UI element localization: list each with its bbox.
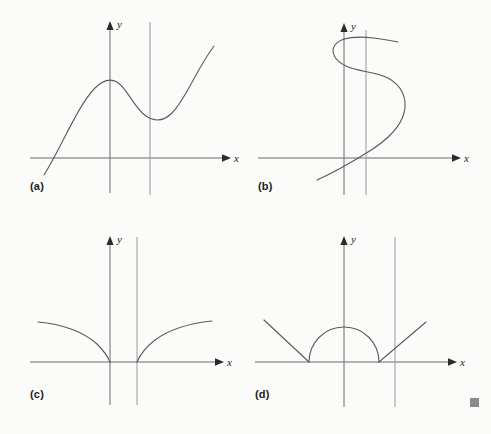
curve-left-ray (264, 320, 309, 362)
x-axis-label: x (226, 356, 232, 368)
panel-a-plot: x y (0, 0, 250, 200)
y-axis-arrowhead (106, 21, 113, 30)
x-axis-label: x (233, 152, 239, 164)
panel-d-plot: x y (240, 215, 491, 434)
curve-left-arc (38, 322, 110, 362)
x-axis-arrowhead (452, 154, 461, 161)
x-axis-label: x (463, 152, 469, 164)
y-axis-arrowhead (106, 236, 113, 245)
end-of-section-marker (470, 398, 479, 407)
x-axis-label: x (459, 356, 465, 368)
x-axis-arrowhead (215, 358, 224, 365)
panel-label-d: (d) (255, 388, 270, 400)
panel-c: x y (c) (0, 215, 250, 434)
y-axis-arrowhead (340, 23, 347, 32)
y-axis-label: y (116, 18, 122, 30)
figure-root: . . . . . . . . . . . . . . . . . . . . … (0, 0, 491, 434)
panel-label-b: (b) (258, 180, 273, 192)
curve-cubic (44, 46, 214, 175)
panel-b-plot: x y (240, 0, 491, 200)
panel-label-a: (a) (30, 180, 44, 192)
x-axis-arrowhead (222, 154, 231, 161)
panel-label-c: (c) (30, 388, 44, 400)
y-axis-arrowhead (340, 236, 347, 245)
curve-right-arc (137, 321, 212, 362)
y-axis-label: y (350, 20, 356, 32)
y-axis-label: y (116, 233, 122, 245)
panel-b: x y (b) (240, 0, 491, 200)
panel-d: x y (d) (240, 215, 491, 434)
panel-a: x y (a) (0, 0, 250, 200)
curve-sideways-s (317, 37, 405, 180)
panel-c-plot: x y (0, 215, 250, 434)
curve-right-ray (379, 322, 426, 362)
x-axis-arrowhead (448, 358, 457, 365)
y-axis-label: y (350, 233, 356, 245)
